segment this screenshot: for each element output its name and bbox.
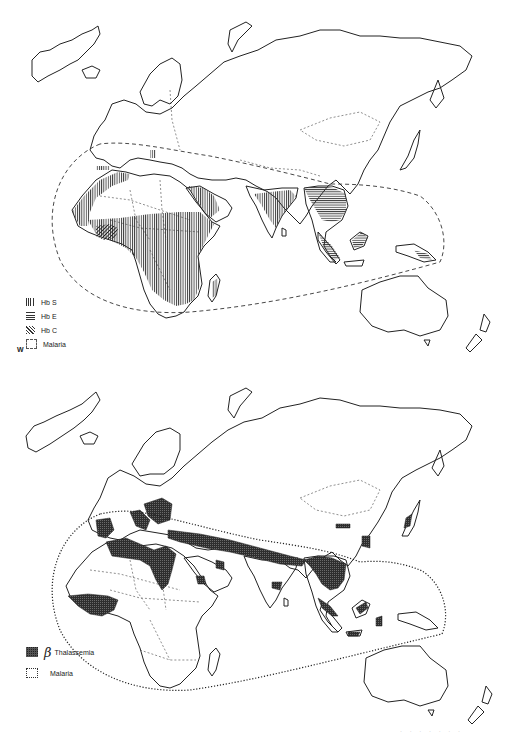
legend-item-hbe: Hb E	[26, 310, 66, 322]
show-through-text: · · · · · · ·	[400, 728, 463, 734]
legend-label-malaria: Malaria	[50, 670, 73, 677]
legend-item-malaria: Malaria	[26, 338, 66, 350]
dashed-outline-swatch-icon	[26, 339, 37, 349]
hemoglobin-map-panel: Hb S Hb E Hb C Malaria W	[0, 0, 515, 370]
hemoglobin-legend: Hb S Hb E Hb C Malaria	[26, 296, 66, 352]
legend-label-hbe: Hb E	[41, 313, 57, 320]
legend-item-malaria: Malaria	[26, 666, 94, 680]
legend-label-malaria: Malaria	[43, 341, 66, 348]
thalassemia-malaria-map	[0, 370, 515, 738]
legend-label-hbc: Hb C	[41, 327, 57, 334]
horizontal-hatch-swatch-icon	[26, 312, 35, 320]
diagonal-hatch-swatch-icon	[26, 326, 35, 334]
legend-item-hbs: Hb S	[26, 296, 66, 308]
dotted-outline-swatch-icon	[26, 668, 38, 678]
legend-item-hbc: Hb C	[26, 324, 66, 336]
vertical-hatch-swatch-icon	[26, 298, 35, 306]
legend-item-thalassemia: β Thalassemia	[26, 644, 94, 660]
thalassemia-legend: β Thalassemia Malaria	[26, 644, 94, 682]
legend-label-hbs: Hb S	[41, 299, 57, 306]
hemoglobin-malaria-map	[0, 0, 515, 370]
thalassemia-map-panel: β Thalassemia Malaria · · · · · · ·	[0, 370, 515, 738]
beta-symbol: β	[44, 645, 52, 660]
legend-label-thalassemia: Thalassemia	[55, 649, 95, 656]
solid-dark-swatch-icon	[26, 647, 38, 657]
corner-mark: W	[17, 346, 24, 353]
